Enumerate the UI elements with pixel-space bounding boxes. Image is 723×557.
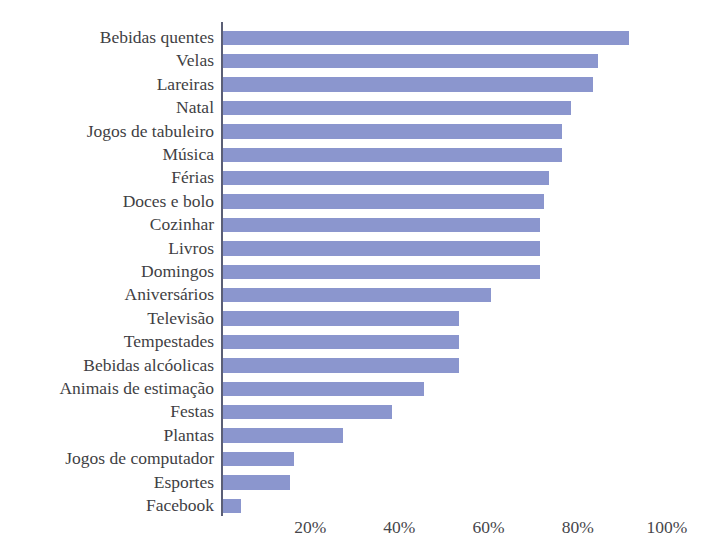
bar <box>223 499 241 514</box>
category-label: Domingos <box>0 260 221 283</box>
bar-track <box>223 377 723 400</box>
category-label: Velas <box>0 49 221 72</box>
bar-row: Doces e bolo <box>0 190 723 213</box>
bar <box>223 405 392 420</box>
bar <box>223 171 549 186</box>
bar-row: Televisão <box>0 307 723 330</box>
bar-track <box>223 400 723 423</box>
category-label: Tempestades <box>0 330 221 353</box>
bar-row: Domingos <box>0 260 723 283</box>
bar-track <box>223 96 723 119</box>
bar-row: Música <box>0 143 723 166</box>
x-tick-label: 20% <box>275 516 345 538</box>
bar-row: Aniversários <box>0 283 723 306</box>
bar-track <box>223 424 723 447</box>
x-tick-label: 60% <box>454 516 524 538</box>
category-label: Plantas <box>0 424 221 447</box>
bar-track <box>223 260 723 283</box>
bar-row: Esportes <box>0 471 723 494</box>
category-label: Aniversários <box>0 283 221 306</box>
category-label: Jogos de tabuleiro <box>0 120 221 143</box>
bar <box>223 311 459 326</box>
bar-row: Festas <box>0 400 723 423</box>
bar-track <box>223 26 723 49</box>
bar-row: Férias <box>0 166 723 189</box>
bar <box>223 335 459 350</box>
bar-track <box>223 213 723 236</box>
bar-row: Cozinhar <box>0 213 723 236</box>
category-label: Festas <box>0 400 221 423</box>
bar <box>223 241 540 256</box>
category-label: Televisão <box>0 307 221 330</box>
bar <box>223 475 290 490</box>
category-label: Doces e bolo <box>0 190 221 213</box>
bar-row: Jogos de computador <box>0 447 723 470</box>
bar <box>223 148 562 163</box>
bar-row: Facebook <box>0 494 723 517</box>
bar-track <box>223 330 723 353</box>
category-label: Jogos de computador <box>0 447 221 470</box>
bar-row: Tempestades <box>0 330 723 353</box>
bar <box>223 218 540 233</box>
bar-track <box>223 190 723 213</box>
bar <box>223 54 598 69</box>
category-label: Livros <box>0 237 221 260</box>
bar <box>223 194 544 209</box>
bar-track <box>223 143 723 166</box>
bar <box>223 382 424 397</box>
bar-row: Plantas <box>0 424 723 447</box>
bar-track <box>223 120 723 143</box>
bar-track <box>223 471 723 494</box>
category-label: Bebidas quentes <box>0 26 221 49</box>
bar <box>223 428 343 443</box>
bar <box>223 124 562 139</box>
bar <box>223 77 593 92</box>
bar-row: Bebidas quentes <box>0 26 723 49</box>
bar-row: Velas <box>0 49 723 72</box>
bar-rows: Bebidas quentesVelasLareirasNatalJogos d… <box>0 22 723 516</box>
bar-track <box>223 447 723 470</box>
category-label: Facebook <box>0 494 221 517</box>
bar <box>223 101 571 116</box>
bar-row: Animais de estimação <box>0 377 723 400</box>
chart-title <box>0 0 723 5</box>
category-label: Férias <box>0 166 221 189</box>
bar-track <box>223 49 723 72</box>
bar <box>223 452 294 467</box>
bar-track <box>223 73 723 96</box>
bar-track <box>223 237 723 260</box>
x-tick-label: 40% <box>364 516 434 538</box>
bar-track <box>223 354 723 377</box>
category-label: Lareiras <box>0 73 221 96</box>
category-label: Cozinhar <box>0 213 221 236</box>
bar <box>223 265 540 280</box>
x-axis-tick-labels: 0%20%40%60%80%100% <box>0 516 723 546</box>
chart-root: Bebidas quentesVelasLareirasNatalJogos d… <box>0 0 723 557</box>
category-label: Bebidas alcóolicas <box>0 354 221 377</box>
bar <box>223 358 459 373</box>
x-tick-label: 80% <box>543 516 613 538</box>
bar-row: Natal <box>0 96 723 119</box>
bar-row: Jogos de tabuleiro <box>0 120 723 143</box>
category-label: Esportes <box>0 471 221 494</box>
bar <box>223 288 491 303</box>
bar-row: Bebidas alcóolicas <box>0 354 723 377</box>
plot-area: Bebidas quentesVelasLareirasNatalJogos d… <box>0 22 723 516</box>
bar-track <box>223 307 723 330</box>
category-label: Natal <box>0 96 221 119</box>
bar-row: Livros <box>0 237 723 260</box>
bar <box>223 31 629 46</box>
bar-row: Lareiras <box>0 73 723 96</box>
x-tick-label: 100% <box>632 516 702 538</box>
bar-track <box>223 494 723 517</box>
category-label: Música <box>0 143 221 166</box>
category-label: Animais de estimação <box>0 377 221 400</box>
bar-track <box>223 283 723 306</box>
bar-track <box>223 166 723 189</box>
